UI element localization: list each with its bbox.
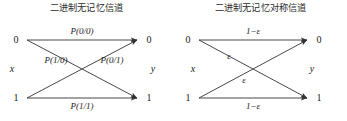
- output-node-0-bmc: 0: [142, 35, 156, 45]
- input-var-x-bsc: x: [186, 64, 200, 74]
- input-node-0-bmc: 0: [9, 35, 23, 45]
- edge-label-p11: P(1/1): [71, 101, 94, 111]
- output-node-1-bsc: 1: [312, 93, 326, 103]
- edge-label-eps-lower: ε: [242, 75, 246, 85]
- figure-root: 二进制无记忆信道 0 1 0 1 x y P(0/0) P(1/0) P(0/1…: [0, 0, 347, 121]
- edge-label-eps-upper: ε: [227, 51, 231, 61]
- input-node-1-bmc: 1: [9, 93, 23, 103]
- output-var-y-bsc: y: [305, 64, 319, 74]
- edge-label-1-minus-eps-bottom: 1−ε: [246, 101, 260, 111]
- diagram-panel-bsc: 二进制无记忆对称信道 0 1 0 1 x y 1−ε ε ε 1−ε: [174, 0, 347, 121]
- input-node-1-bsc: 1: [181, 93, 195, 103]
- input-var-x-bmc: x: [5, 64, 19, 74]
- edge-label-p01: P(0/1): [101, 55, 124, 65]
- edge-label-1-minus-eps-top: 1−ε: [246, 26, 260, 36]
- diagram-panel-bmc: 二进制无记忆信道 0 1 0 1 x y P(0/0) P(1/0) P(0/1…: [0, 0, 173, 121]
- edge-label-p00: P(0/0): [71, 26, 94, 36]
- output-node-0-bsc: 0: [312, 35, 326, 45]
- edge-label-p10: P(1/0): [45, 55, 68, 65]
- output-var-y-bmc: y: [146, 64, 160, 74]
- input-node-0-bsc: 0: [181, 35, 195, 45]
- output-node-1-bmc: 1: [142, 93, 156, 103]
